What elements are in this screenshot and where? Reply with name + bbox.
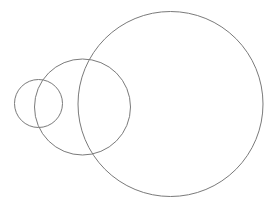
figure-canvas [0, 0, 277, 209]
canvas-background [0, 0, 277, 209]
circles-diagram [0, 0, 277, 209]
